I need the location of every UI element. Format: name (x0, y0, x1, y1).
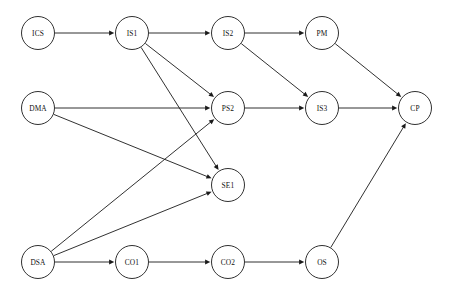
edge-dma-to-ps2 (55, 106, 210, 111)
node-os[interactable]: OS (306, 246, 339, 279)
arrowhead-icon (303, 92, 309, 97)
arrowhead-icon (299, 106, 304, 111)
arrowhead-icon (205, 260, 210, 265)
edge-is3-to-cp (339, 106, 397, 111)
arrowhead-icon (205, 31, 210, 36)
node-is1[interactable]: IS1 (116, 17, 149, 50)
edge-dsa-to-co1 (55, 260, 114, 265)
node-label: PS2 (222, 104, 235, 113)
node-cp[interactable]: CP (399, 92, 432, 125)
node-label: IS3 (317, 104, 328, 113)
node-label: DMA (29, 104, 47, 113)
edge-co2-to-os (245, 260, 304, 265)
edge-line (241, 44, 305, 95)
node-label: DSA (30, 258, 46, 267)
node-co1[interactable]: CO1 (116, 246, 149, 279)
node-label: CO2 (221, 258, 236, 267)
edge-os-to-cp (331, 123, 406, 247)
graph-diagram: ICSIS1IS2PMDMAPS2IS3CPSE1DSACO1CO2OS (0, 0, 449, 294)
edges-layer (51, 31, 406, 265)
edge-ics-to-is1 (55, 31, 114, 36)
node-dsa[interactable]: DSA (22, 246, 55, 279)
edge-line (331, 126, 404, 247)
node-co2[interactable]: CO2 (212, 246, 245, 279)
edge-is2-to-is3 (241, 44, 308, 97)
node-is2[interactable]: IS2 (212, 17, 245, 50)
node-label: CP (410, 104, 419, 113)
arrowhead-icon (401, 123, 406, 129)
node-label: SE1 (222, 181, 235, 190)
edge-is1-to-is2 (149, 31, 210, 36)
node-pm[interactable]: PM (306, 17, 339, 50)
node-dma[interactable]: DMA (22, 92, 55, 125)
node-label: ICS (32, 29, 44, 38)
node-is3[interactable]: IS3 (306, 92, 339, 125)
node-label: PM (317, 29, 328, 38)
edge-co1-to-co2 (149, 260, 210, 265)
arrowhead-icon (214, 164, 219, 170)
edge-dma-to-se1 (54, 114, 212, 178)
arrowhead-icon (109, 260, 114, 265)
arrowhead-icon (109, 31, 114, 36)
graph-canvas: ICSIS1IS2PMDMAPS2IS3CPSE1DSACO1CO2OS (0, 0, 449, 294)
node-label: CO1 (125, 258, 140, 267)
edge-line (51, 122, 211, 252)
nodes-layer: ICSIS1IS2PMDMAPS2IS3CPSE1DSACO1CO2OS (22, 17, 432, 279)
arrowhead-icon (205, 106, 210, 111)
node-se1[interactable]: SE1 (212, 169, 245, 202)
edge-dsa-to-ps2 (51, 119, 214, 251)
node-ics[interactable]: ICS (22, 17, 55, 50)
edge-line (335, 44, 398, 95)
arrowhead-icon (392, 106, 397, 111)
edge-ps2-to-is3 (245, 106, 304, 111)
edge-pm-to-cp (335, 44, 401, 97)
node-label: OS (317, 258, 327, 267)
arrowhead-icon (299, 31, 304, 36)
node-label: IS1 (127, 29, 138, 38)
edge-is2-to-pm (245, 31, 304, 36)
edge-line (54, 114, 208, 177)
arrowhead-icon (208, 92, 214, 97)
arrowhead-icon (299, 260, 304, 265)
node-label: IS2 (223, 29, 234, 38)
node-ps2[interactable]: PS2 (212, 92, 245, 125)
